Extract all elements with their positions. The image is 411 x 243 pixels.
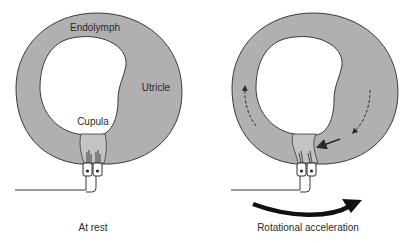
hair-cells [297, 163, 316, 176]
label-utricle: Utricle [142, 83, 170, 93]
label-cupula: Cupula [77, 117, 109, 127]
canal-ring [232, 13, 398, 164]
hair-cells [83, 163, 102, 176]
semicircular-canal-rotating [231, 13, 398, 215]
caption-rotational-acceleration: Rotational acceleration [257, 223, 359, 233]
afferent-nerve [231, 176, 310, 192]
rotation-direction-arrow [253, 204, 350, 215]
label-endolymph: Endolymph [70, 23, 120, 33]
afferent-nerve [15, 176, 96, 192]
semicircular-canal-at-rest [15, 13, 182, 192]
diagram-canvas [0, 0, 411, 243]
caption-at-rest: At rest [79, 223, 108, 233]
cupula [80, 134, 106, 163]
